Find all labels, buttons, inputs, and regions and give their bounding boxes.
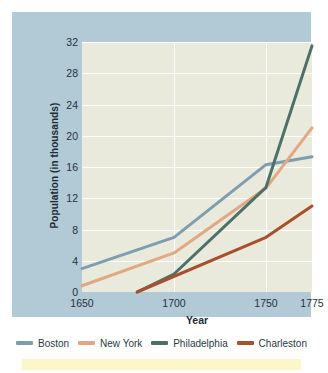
y-tick-label: 32 (50, 37, 78, 47)
series-lines (82, 42, 312, 292)
x-tick-label: 1650 (60, 297, 104, 309)
legend-swatch-icon (16, 341, 33, 345)
legend-label: New York (100, 338, 142, 349)
y-tick-label: 4 (50, 256, 78, 266)
x-tick-label: 1700 (152, 297, 196, 309)
legend-label: Charleston (259, 338, 307, 349)
legend-item-philadelphia[interactable]: Philadelphia (151, 338, 228, 349)
chart-panel: Population (in thousands) 04812162024283… (12, 12, 311, 317)
chart-legend: BostonNew YorkPhiladelphiaCharleston (12, 334, 311, 352)
legend-label: Boston (38, 338, 69, 349)
y-tick-label: 12 (50, 193, 78, 203)
legend-swatch-icon (151, 341, 168, 345)
bottom-accent-band (22, 359, 301, 370)
y-tick-label: 28 (50, 68, 78, 78)
x-tick-label: 1775 (290, 297, 328, 309)
x-axis-ticks: 1650170017501775 (82, 297, 312, 313)
legend-item-boston[interactable]: Boston (16, 338, 69, 349)
y-tick-label: 24 (50, 100, 78, 110)
legend-item-charleston[interactable]: Charleston (237, 338, 307, 349)
x-axis-title: Year (82, 314, 312, 326)
plot-area (82, 42, 312, 292)
legend-item-new-york[interactable]: New York (78, 338, 142, 349)
legend-label: Philadelphia (173, 338, 228, 349)
y-tick-label: 8 (50, 225, 78, 235)
y-axis-ticks: 048121620242832 (46, 42, 78, 292)
x-tick-label: 1750 (244, 297, 288, 309)
y-tick-label: 20 (50, 131, 78, 141)
legend-swatch-icon (237, 341, 254, 345)
y-tick-label: 0 (50, 287, 78, 297)
gridline (312, 42, 313, 292)
legend-swatch-icon (78, 341, 95, 345)
y-tick-label: 16 (50, 162, 78, 172)
